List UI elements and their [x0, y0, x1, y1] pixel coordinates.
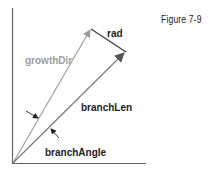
diagram-canvas: rad growthDir branchLen branchAngle [0, 0, 216, 171]
label-growthDir: growthDir [25, 55, 72, 66]
label-branchLen: branchLen [81, 102, 132, 113]
label-rad: rad [107, 28, 123, 39]
angle-arrow-upper [26, 111, 38, 118]
growthDir-vector [13, 30, 90, 163]
figure-caption: Figure 7-9 [161, 13, 202, 25]
label-branchAngle: branchAngle [45, 147, 107, 158]
angle-arrow-lower [51, 129, 59, 138]
